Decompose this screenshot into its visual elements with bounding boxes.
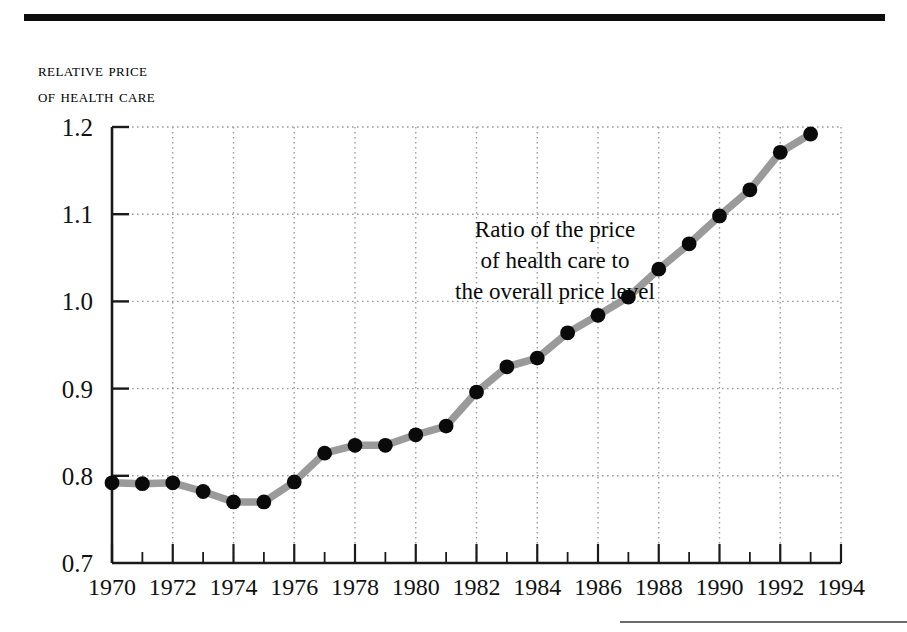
annotation-line-1: Ratio of the price [475,217,635,242]
data-point-marker [256,495,271,510]
y-tick-label: 1.2 [62,114,93,141]
data-line-group [112,134,811,502]
data-point-marker [803,127,818,142]
data-point-marker [196,484,211,499]
x-tick-label: 1990 [696,574,744,600]
y-ticks-group [112,127,129,476]
annotation-line-2: of health care to [481,248,630,273]
data-point-marker [439,419,454,434]
x-tick-label: 1976 [270,574,318,600]
x-tick-label: 1988 [635,574,683,600]
data-point-marker [165,475,180,490]
data-point-marker [651,262,666,277]
x-tick-label: 1994 [817,574,865,600]
chart-annotation: Ratio of the price of health care to the… [455,217,655,304]
figure-root: Relative price of health care 0.70.80.91… [0,0,907,632]
y-tick-label: 0.7 [62,550,93,577]
data-point-marker [530,351,545,366]
y-tick-labels-group: 0.70.80.91.01.11.2 [62,114,93,577]
data-point-marker [773,145,788,160]
data-point-marker [499,359,514,374]
data-point-marker [348,438,363,453]
data-point-marker [469,385,484,400]
data-points-group [105,127,818,510]
bottom-rule-divider [620,621,907,623]
data-point-marker [317,446,332,461]
x-tick-label: 1982 [453,574,501,600]
y-tick-label: 0.8 [62,463,93,490]
data-point-marker [378,438,393,453]
y-tick-label: 1.1 [62,201,93,228]
x-major-ticks-group [112,544,841,563]
data-series-line [112,134,811,502]
x-tick-labels-group: 1970197219741976197819801982198419861988… [88,574,865,600]
data-point-marker [591,308,606,323]
data-point-marker [408,427,423,442]
data-point-marker [682,236,697,251]
data-point-marker [226,495,241,510]
data-point-marker [742,182,757,197]
y-tick-label: 1.0 [62,288,93,315]
data-point-marker [105,475,120,490]
x-tick-label: 1974 [210,574,258,600]
data-point-marker [712,209,727,224]
x-tick-label: 1980 [392,574,440,600]
data-point-marker [560,325,575,340]
x-tick-label: 1972 [149,574,197,600]
plot-area: 0.70.80.91.01.11.2 197019721974197619781… [0,0,907,632]
data-point-marker [135,476,150,491]
x-tick-label: 1986 [574,574,622,600]
y-tick-label: 0.9 [62,376,93,403]
x-tick-label: 1978 [331,574,379,600]
x-tick-label: 1992 [756,574,804,600]
x-tick-label: 1984 [513,574,561,600]
x-tick-label: 1970 [88,574,136,600]
annotation-line-3: the overall price level [455,279,655,304]
line-chart-svg: 0.70.80.91.01.11.2 197019721974197619781… [0,0,907,632]
data-point-marker [287,475,302,490]
